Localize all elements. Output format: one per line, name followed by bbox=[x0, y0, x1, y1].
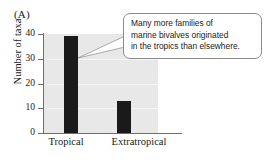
gridline-20 bbox=[44, 84, 158, 85]
x-axis-line bbox=[43, 133, 182, 134]
y-tick-mark-0 bbox=[38, 133, 43, 134]
callout-pointer bbox=[78, 34, 128, 62]
y-tick-mark-10 bbox=[38, 108, 43, 109]
y-axis-line bbox=[43, 33, 44, 134]
gridline-10 bbox=[44, 108, 158, 109]
y-tick-mark-30 bbox=[38, 59, 43, 60]
callout-line-1: Many more families of bbox=[131, 18, 255, 30]
callout-line-3: in the tropics than elsewhere. bbox=[131, 41, 255, 53]
y-tick-label-10: 10 bbox=[9, 103, 35, 113]
y-axis-title: Number of taxa bbox=[12, 4, 23, 100]
annotation-callout: Many more families of marine bivalves or… bbox=[123, 13, 262, 59]
x-axis-label-tropical: Tropical bbox=[36, 136, 96, 147]
y-tick-mark-40 bbox=[38, 34, 43, 35]
y-tick-mark-20 bbox=[38, 84, 43, 85]
figure-panel-a: (A) 40 30 20 10 0 Number of taxa Tropica… bbox=[0, 0, 272, 165]
x-axis-label-extratropical: Extratropical bbox=[96, 136, 182, 147]
callout-line-2: marine bivalves originated bbox=[131, 30, 255, 42]
bar-extratropical bbox=[117, 101, 131, 133]
bar-tropical bbox=[64, 36, 78, 133]
y-tick-label-0: 0 bbox=[9, 128, 35, 138]
